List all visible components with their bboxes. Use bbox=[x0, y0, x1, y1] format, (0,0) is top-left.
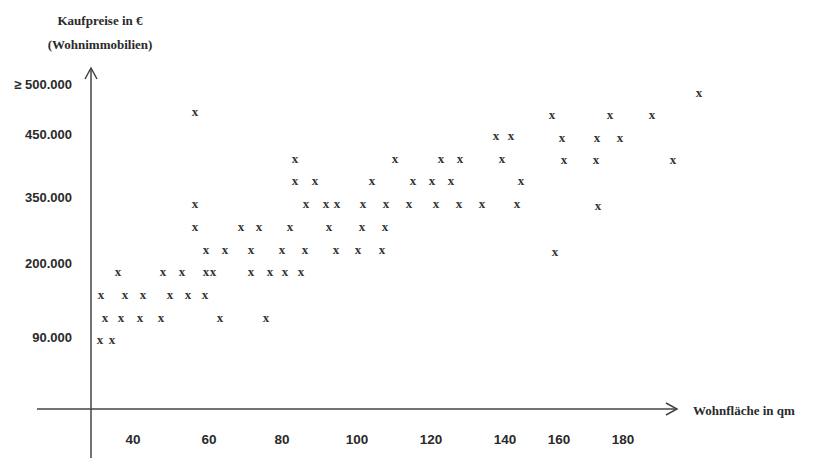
x-marker-icon: x bbox=[376, 243, 388, 257]
x-marker-icon: x bbox=[276, 243, 288, 257]
x-marker-icon: x bbox=[219, 243, 231, 257]
x-marker-icon: x bbox=[214, 311, 226, 325]
y-tick-label: 450.000 bbox=[0, 128, 72, 142]
x-marker-icon: x bbox=[115, 311, 127, 325]
y-tick-label: ≥ 500.000 bbox=[0, 78, 72, 92]
x-axis-title: Wohnfläche in qm bbox=[693, 403, 795, 419]
x-marker-icon: x bbox=[155, 311, 167, 325]
x-marker-icon: x bbox=[289, 174, 301, 188]
x-marker-icon: x bbox=[119, 288, 131, 302]
x-marker-icon: x bbox=[279, 265, 291, 279]
x-marker-icon: x bbox=[134, 311, 146, 325]
x-marker-icon: x bbox=[693, 86, 705, 100]
x-marker-icon: x bbox=[189, 105, 201, 119]
x-tick-label: 140 bbox=[485, 432, 525, 447]
x-marker-icon: x bbox=[590, 153, 602, 167]
x-marker-icon: x bbox=[546, 108, 558, 122]
x-marker-icon: x bbox=[558, 153, 570, 167]
x-marker-icon: x bbox=[435, 152, 447, 166]
x-marker-icon: x bbox=[189, 197, 201, 211]
x-marker-icon: x bbox=[299, 243, 311, 257]
x-marker-icon: x bbox=[380, 197, 392, 211]
x-tick-label: 120 bbox=[411, 432, 451, 447]
x-marker-icon: x bbox=[389, 152, 401, 166]
x-marker-icon: x bbox=[164, 288, 176, 302]
x-marker-icon: x bbox=[235, 220, 247, 234]
x-marker-icon: x bbox=[490, 129, 502, 143]
x-marker-icon: x bbox=[549, 245, 561, 259]
x-marker-icon: x bbox=[94, 333, 106, 347]
x-marker-icon: x bbox=[604, 108, 616, 122]
x-marker-icon: x bbox=[379, 220, 391, 234]
x-marker-icon: x bbox=[182, 288, 194, 302]
x-marker-icon: x bbox=[426, 174, 438, 188]
x-marker-icon: x bbox=[445, 174, 457, 188]
x-marker-icon: x bbox=[614, 131, 626, 145]
x-marker-icon: x bbox=[592, 199, 604, 213]
x-marker-icon: x bbox=[511, 197, 523, 211]
x-marker-icon: x bbox=[207, 265, 219, 279]
x-marker-icon: x bbox=[591, 131, 603, 145]
x-marker-icon: x bbox=[245, 265, 257, 279]
x-marker-icon: x bbox=[99, 311, 111, 325]
x-marker-icon: x bbox=[112, 265, 124, 279]
x-marker-icon: x bbox=[289, 152, 301, 166]
x-marker-icon: x bbox=[430, 197, 442, 211]
x-marker-icon: x bbox=[453, 197, 465, 211]
x-marker-icon: x bbox=[260, 311, 272, 325]
x-marker-icon: x bbox=[505, 129, 517, 143]
x-marker-icon: x bbox=[515, 174, 527, 188]
x-tick-label: 40 bbox=[113, 432, 153, 447]
x-marker-icon: x bbox=[356, 220, 368, 234]
x-marker-icon: x bbox=[323, 220, 335, 234]
x-tick-label: 160 bbox=[539, 432, 579, 447]
y-tick-label: 200.000 bbox=[0, 257, 72, 271]
x-tick-label: 100 bbox=[337, 432, 377, 447]
x-marker-icon: x bbox=[646, 108, 658, 122]
x-marker-icon: x bbox=[137, 288, 149, 302]
y-tick-label: 90.000 bbox=[0, 331, 72, 345]
x-marker-icon: x bbox=[496, 152, 508, 166]
x-marker-icon: x bbox=[284, 220, 296, 234]
x-marker-icon: x bbox=[95, 288, 107, 302]
x-marker-icon: x bbox=[157, 265, 169, 279]
x-marker-icon: x bbox=[667, 153, 679, 167]
x-marker-icon: x bbox=[454, 152, 466, 166]
x-marker-icon: x bbox=[556, 131, 568, 145]
y-tick-label: 350.000 bbox=[0, 191, 72, 205]
x-marker-icon: x bbox=[253, 220, 265, 234]
x-marker-icon: x bbox=[295, 265, 307, 279]
x-tick-label: 60 bbox=[189, 432, 229, 447]
x-marker-icon: x bbox=[366, 174, 378, 188]
x-marker-icon: x bbox=[407, 174, 419, 188]
x-marker-icon: x bbox=[352, 243, 364, 257]
x-marker-icon: x bbox=[176, 265, 188, 279]
x-marker-icon: x bbox=[264, 265, 276, 279]
x-tick-label: 80 bbox=[262, 432, 302, 447]
x-marker-icon: x bbox=[199, 288, 211, 302]
x-marker-icon: x bbox=[245, 243, 257, 257]
x-marker-icon: x bbox=[331, 197, 343, 211]
x-marker-icon: x bbox=[357, 197, 369, 211]
x-marker-icon: x bbox=[106, 333, 118, 347]
x-marker-icon: x bbox=[403, 197, 415, 211]
x-marker-icon: x bbox=[476, 197, 488, 211]
x-marker-icon: x bbox=[300, 197, 312, 211]
x-marker-icon: x bbox=[309, 174, 321, 188]
x-marker-icon: x bbox=[200, 243, 212, 257]
x-tick-label: 180 bbox=[603, 432, 643, 447]
x-marker-icon: x bbox=[189, 220, 201, 234]
x-marker-icon: x bbox=[330, 243, 342, 257]
